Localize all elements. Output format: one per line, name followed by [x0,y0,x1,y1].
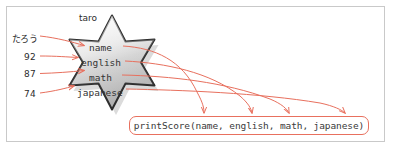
input-value-math: 87 [24,69,36,79]
input-value-japanese: 74 [24,89,36,99]
function-call-box: printScore(name, english, math, japanese… [129,116,369,135]
object-field-english: english [81,57,121,68]
object-label: taro [79,13,97,23]
field-to-argument-arrows [122,46,345,113]
object-field-name: name [89,42,112,53]
input-value-english: 92 [24,52,36,62]
diagram-canvas: taro たろう 92 87 74 name english math japa… [0,0,395,155]
object-field-japanese: japanese [77,87,123,98]
function-call-text: printScore(name, english, math, japanese… [134,120,364,131]
input-value-name: たろう [12,32,39,45]
object-field-math: math [89,72,112,83]
